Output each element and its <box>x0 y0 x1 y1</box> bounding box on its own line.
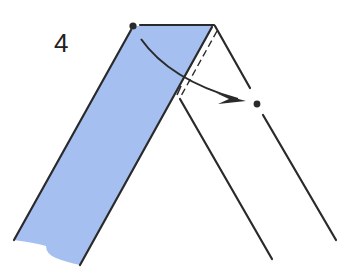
flap-inner-edge <box>180 99 272 259</box>
flap-outer-edge-lower <box>263 115 336 240</box>
diagram-canvas <box>0 0 344 278</box>
flap-outer-edge-upper <box>215 26 250 88</box>
start-point-dot <box>129 22 136 29</box>
target-point-dot <box>254 101 261 108</box>
arrowhead-icon <box>216 93 246 104</box>
